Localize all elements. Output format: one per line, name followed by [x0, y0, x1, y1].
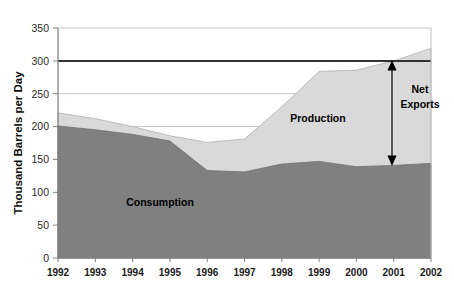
- y-tick-label: 150: [31, 153, 49, 165]
- chart-container: 350 300 250 200 150 100 50 0 1992 1993 1…: [0, 0, 454, 293]
- x-tick-labels: 1992 1993 1994 1995 1996 1997 1998 1999 …: [47, 267, 443, 278]
- y-tick-label: 350: [31, 22, 49, 34]
- y-tick-label: 300: [31, 55, 49, 67]
- y-tick-label: 0: [43, 252, 49, 264]
- x-tick-label: 2002: [420, 267, 443, 278]
- x-tick-label: 2001: [383, 267, 406, 278]
- x-tick-label: 1997: [233, 267, 256, 278]
- production-label: Production: [290, 112, 345, 124]
- x-tick-label: 1992: [47, 267, 70, 278]
- y-axis-title: Thousand Barrels per Day: [12, 71, 24, 215]
- x-tick-label: 1993: [84, 267, 107, 278]
- x-tick-label: 1996: [196, 267, 219, 278]
- y-tick-label: 200: [31, 120, 49, 132]
- y-tick-label: 50: [37, 219, 49, 231]
- x-tick-label: 1994: [121, 267, 144, 278]
- net-exports-label-line2: Exports: [400, 98, 439, 110]
- net-exports-label-line1: Net: [412, 83, 429, 95]
- x-tick-label: 1998: [271, 267, 294, 278]
- y-tick-marks: [53, 28, 58, 258]
- y-tick-label: 250: [31, 88, 49, 100]
- area-chart-svg: 350 300 250 200 150 100 50 0 1992 1993 1…: [0, 0, 454, 293]
- x-tick-label: 1995: [159, 267, 182, 278]
- y-tick-label: 100: [31, 186, 49, 198]
- x-tick-label: 1999: [308, 267, 331, 278]
- y-tick-labels: 350 300 250 200 150 100 50 0: [31, 22, 49, 264]
- consumption-label: Consumption: [126, 196, 194, 208]
- x-tick-label: 2000: [345, 267, 368, 278]
